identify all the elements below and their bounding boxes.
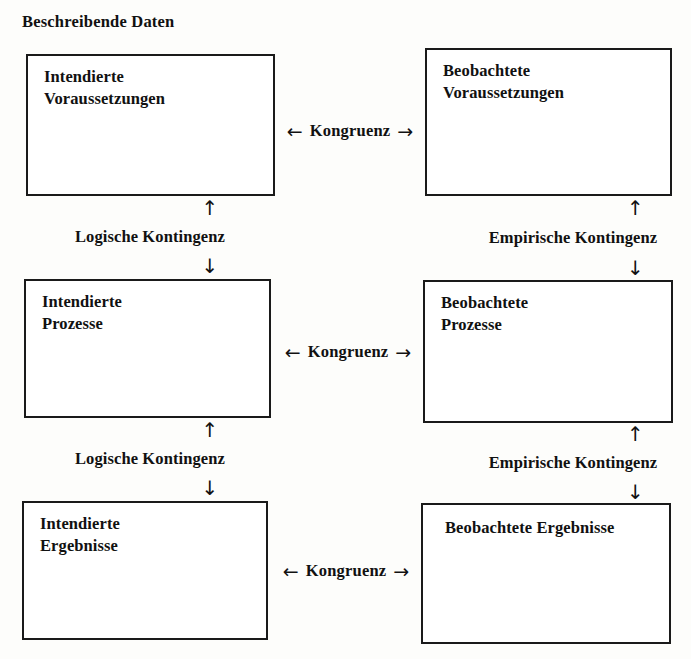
arrow-left-icon: ←: [285, 343, 301, 362]
link-empirische-kontingenz-2: ↑ Empirische Kontingenz ↓: [448, 424, 691, 502]
link-logische-kontingenz-1: ↑ Logische Kontingenz ↓: [30, 198, 270, 276]
arrow-down-icon: ↓: [202, 256, 219, 276]
link-kongruenz-prozesse: ← Kongruenz →: [273, 338, 423, 366]
arrow-up-icon: ↑: [627, 424, 644, 444]
arrow-left-icon: ←: [283, 562, 299, 581]
link-kongruenz-ergebnisse: ← Kongruenz →: [270, 557, 422, 585]
link-label: Logische Kontingenz: [75, 449, 225, 469]
arrow-up-icon: ↑: [202, 420, 219, 440]
link-label: Empirische Kontingenz: [489, 453, 657, 473]
arrow-right-icon: →: [395, 343, 411, 362]
arrow-up-icon: ↑: [627, 198, 644, 218]
node-beobachtete-ergebnisse: Beobachtete Ergebnisse: [421, 503, 671, 644]
arrow-down-icon: ↓: [202, 478, 219, 498]
link-label: Kongruenz: [308, 342, 389, 362]
node-label: Beobachtete Voraussetzungen: [443, 60, 564, 104]
arrow-left-icon: ←: [287, 122, 303, 141]
link-empirische-kontingenz-1: ↑ Empirische Kontingenz ↓: [448, 198, 691, 278]
link-label: Logische Kontingenz: [75, 227, 225, 247]
arrow-right-icon: →: [397, 122, 413, 141]
page-title: Beschreibende Daten: [22, 12, 174, 32]
node-label: Beobachtete Ergebnisse: [445, 517, 614, 539]
node-label: Beobachtete Prozesse: [441, 292, 528, 336]
node-label: Intendierte Voraussetzungen: [44, 66, 165, 110]
node-beobachtete-prozesse: Beobachtete Prozesse: [423, 280, 673, 423]
arrow-down-icon: ↓: [627, 258, 644, 278]
link-label: Kongruenz: [306, 561, 387, 581]
arrow-up-icon: ↑: [202, 198, 219, 218]
diagram-canvas: Beschreibende Daten Intendierte Vorausse…: [0, 0, 691, 659]
node-intendierte-prozesse: Intendierte Prozesse: [24, 279, 271, 418]
link-kongruenz-voraussetzungen: ← Kongruenz →: [277, 117, 423, 145]
node-intendierte-ergebnisse: Intendierte Ergebnisse: [22, 501, 268, 640]
link-logische-kontingenz-2: ↑ Logische Kontingenz ↓: [30, 420, 270, 498]
arrow-down-icon: ↓: [627, 482, 644, 502]
node-beobachtete-voraussetzungen: Beobachtete Voraussetzungen: [425, 48, 672, 196]
node-label: Intendierte Prozesse: [42, 291, 122, 335]
arrow-right-icon: →: [393, 562, 409, 581]
node-label: Intendierte Ergebnisse: [40, 513, 120, 557]
link-label: Kongruenz: [310, 121, 391, 141]
link-label: Empirische Kontingenz: [489, 228, 657, 248]
node-intendierte-voraussetzungen: Intendierte Voraussetzungen: [26, 54, 275, 196]
